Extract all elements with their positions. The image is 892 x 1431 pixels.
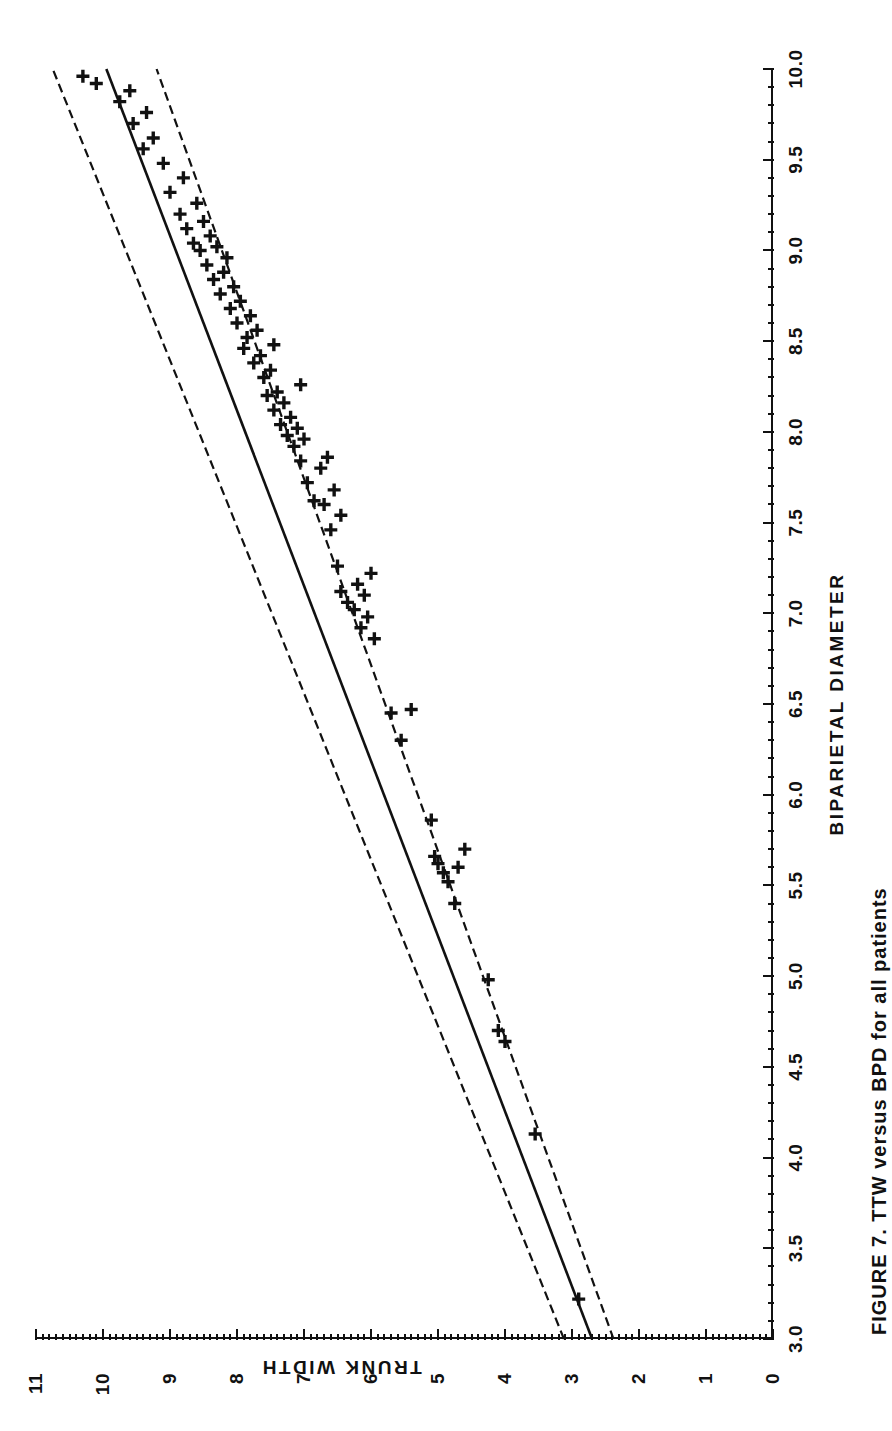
data-point-marker [365, 567, 378, 580]
x-tick-label: 8.5 [785, 327, 807, 355]
y-axis-title: TRUNK WIDTH [211, 1356, 471, 1378]
data-point-marker [277, 396, 290, 409]
data-point-marker [458, 843, 471, 856]
data-point-marker [207, 273, 220, 286]
x-tick-label: 6.0 [785, 781, 807, 809]
data-point-marker [405, 703, 418, 716]
data-point-marker [348, 603, 361, 616]
scatter-plot-area: 3.03.54.04.55.05.56.06.57.07.58.08.59.09… [36, 69, 773, 1339]
data-point-marker [174, 208, 187, 221]
data-point-marker [90, 77, 103, 90]
x-tick-label: 3.5 [785, 1234, 807, 1262]
x-tick-label: 5.0 [785, 962, 807, 990]
data-point-marker [247, 356, 260, 369]
x-tick-label: 10.0 [785, 50, 807, 89]
data-point-marker [298, 433, 311, 446]
data-point-marker [395, 734, 408, 747]
x-tick-label: 3.0 [785, 1325, 807, 1353]
data-point-marker [321, 451, 334, 464]
data-point-marker [234, 295, 247, 308]
figure-caption: FIGURE 7. TTW versus BPD for all patient… [868, 887, 891, 1335]
regression-line [106, 69, 592, 1339]
y-tick-label: 4 [494, 1373, 516, 1384]
data-point-marker [194, 244, 207, 257]
data-point-marker [123, 84, 136, 97]
y-tick-label: 0 [762, 1373, 784, 1384]
figure-page: 3.03.54.04.55.05.56.06.57.07.58.08.59.09… [0, 0, 892, 1431]
data-point-marker [231, 317, 244, 330]
y-tick-label: 3 [561, 1373, 583, 1384]
x-axis-title: BIPARIETAL DIAMETER [826, 69, 848, 1339]
data-point-marker [200, 258, 213, 271]
x-tick-label: 7.0 [785, 599, 807, 627]
data-point-marker [267, 338, 280, 351]
data-point-marker [368, 632, 381, 645]
data-point-marker [190, 197, 203, 210]
data-point-marker [177, 171, 190, 184]
data-point-marker [328, 483, 341, 496]
data-point-marker [358, 589, 371, 602]
data-point-marker [197, 215, 210, 228]
rotated-figure-wrapper: 3.03.54.04.55.05.56.06.57.07.58.08.59.09… [0, 0, 892, 1431]
data-point-marker [499, 1035, 512, 1048]
x-tick-label: 8.0 [785, 418, 807, 446]
x-tick-label: 4.5 [785, 1053, 807, 1081]
data-point-marker [257, 371, 270, 384]
x-tick-label: 4.0 [785, 1144, 807, 1172]
data-point-marker [334, 509, 347, 522]
y-tick-label: 2 [628, 1373, 650, 1384]
data-point-marker [284, 411, 297, 424]
data-point-marker [76, 70, 89, 83]
confidence-limit-line [157, 69, 614, 1339]
x-tick-label: 7.5 [785, 509, 807, 537]
data-point-marker [361, 610, 374, 623]
x-tick-label: 9.5 [785, 146, 807, 174]
data-point-marker [147, 131, 160, 144]
figure-body: 3.03.54.04.55.05.56.06.57.07.58.08.59.09… [0, 0, 892, 1431]
data-point-marker [452, 861, 465, 874]
data-point-marker [351, 578, 364, 591]
data-point-marker [291, 422, 304, 435]
data-point-marker [140, 106, 153, 119]
y-tick-label: 11 [25, 1373, 47, 1394]
x-tick-label: 6.5 [785, 690, 807, 718]
y-tick-label: 1 [695, 1373, 717, 1384]
x-tick-label: 5.5 [785, 871, 807, 899]
x-tick-label: 9.0 [785, 236, 807, 264]
data-point-marker [294, 378, 307, 391]
data-point-marker [224, 302, 237, 315]
data-point-marker [281, 429, 294, 442]
data-point-marker [214, 287, 227, 300]
data-point-marker [164, 186, 177, 199]
data-point-marker [157, 157, 170, 170]
data-series-layer [36, 69, 773, 1339]
data-point-marker [324, 523, 337, 536]
data-point-marker [180, 222, 193, 235]
y-tick-label: 10 [92, 1373, 114, 1395]
y-tick-label: 9 [159, 1373, 181, 1384]
data-point-marker [314, 462, 327, 475]
confidence-limit-line [53, 69, 564, 1339]
data-point-marker [187, 237, 200, 250]
